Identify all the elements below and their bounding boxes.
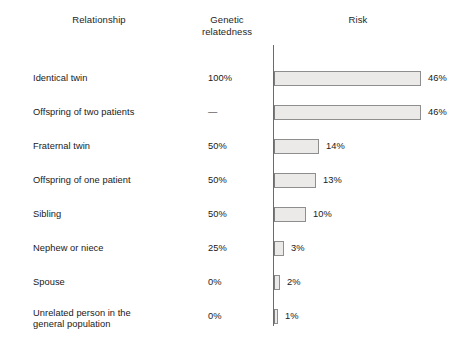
risk-bar-value-label: 10% — [313, 208, 332, 221]
row-value-genetic-relatedness: 0% — [208, 277, 264, 288]
table-row: Sibling50%10% — [0, 207, 468, 225]
risk-bar-value-label: 14% — [326, 140, 345, 153]
risk-bar-value-label: 46% — [428, 106, 447, 119]
row-label-relationship: Identical twin — [33, 73, 193, 84]
risk-bar-value-label: 2% — [287, 276, 301, 289]
table-row: Unrelated person in thegeneral populatio… — [0, 309, 468, 327]
row-value-genetic-relatedness: 0% — [208, 311, 264, 322]
risk-bar — [274, 105, 421, 120]
risk-bar — [274, 173, 316, 188]
row-value-genetic-relatedness: 50% — [208, 209, 264, 220]
risk-bar-value-label: 13% — [323, 174, 342, 187]
table-row: Fraternal twin50%14% — [0, 139, 468, 157]
row-value-genetic-relatedness: 50% — [208, 175, 264, 186]
row-label-relationship: Fraternal twin — [33, 141, 193, 152]
risk-by-relationship-chart: Relationship Genetic relatedness Risk Id… — [0, 0, 468, 341]
risk-bar-value-label: 46% — [428, 72, 447, 85]
risk-bar-value-label: 3% — [291, 242, 305, 255]
row-label-relationship: Offspring of one patient — [33, 175, 193, 186]
risk-bar — [274, 241, 284, 256]
risk-bar-value-label: 1% — [285, 310, 299, 323]
row-label-relationship: Unrelated person in thegeneral populatio… — [33, 308, 193, 329]
chart-rows: Identical twin100%46%Offspring of two pa… — [0, 0, 468, 341]
row-label-relationship: Sibling — [33, 209, 193, 220]
row-label-line-1: Unrelated person in the — [33, 308, 193, 319]
row-value-genetic-relatedness: 25% — [208, 243, 264, 254]
risk-bar — [274, 275, 280, 290]
row-label-relationship: Offspring of two patients — [33, 107, 193, 118]
risk-bar — [274, 207, 306, 222]
risk-bar — [274, 139, 319, 154]
table-row: Offspring of two patients—46% — [0, 105, 468, 123]
table-row: Offspring of one patient50%13% — [0, 173, 468, 191]
risk-bar — [274, 309, 278, 324]
table-row: Nephew or niece25%3% — [0, 241, 468, 259]
row-label-line-2: general population — [33, 319, 193, 330]
row-value-genetic-relatedness: 100% — [208, 73, 264, 84]
row-label-relationship: Spouse — [33, 277, 193, 288]
table-row: Identical twin100%46% — [0, 71, 468, 89]
row-value-genetic-relatedness: — — [208, 107, 264, 118]
row-label-relationship: Nephew or niece — [33, 243, 193, 254]
row-value-genetic-relatedness: 50% — [208, 141, 264, 152]
table-row: Spouse0%2% — [0, 275, 468, 293]
risk-bar — [274, 71, 421, 86]
